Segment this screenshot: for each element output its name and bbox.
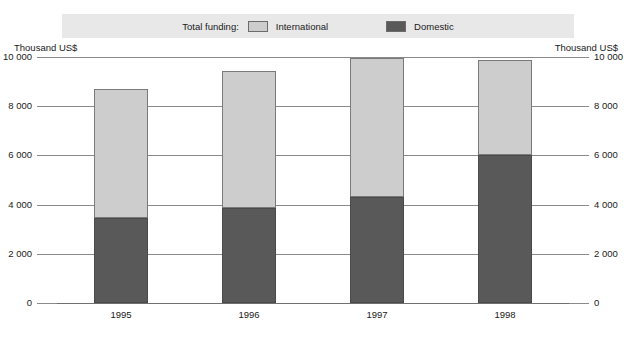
bar-segment-international-1998[interactable] xyxy=(478,60,532,155)
x-axis-label-1998: 1998 xyxy=(478,309,532,320)
tick-stub-left-0 xyxy=(37,303,57,304)
bar-segment-international-1996[interactable] xyxy=(222,71,276,208)
international-swatch-icon xyxy=(248,21,268,32)
y-tick-label-left-8000: 8 000 xyxy=(8,101,32,111)
bar-segment-international-1995[interactable] xyxy=(94,89,148,218)
tick-stub-right-10000 xyxy=(569,57,589,58)
legend-inner: Total funding: International Domestic xyxy=(182,21,453,32)
tick-stub-right-6000 xyxy=(569,155,589,156)
y-tick-label-left-0: 0 xyxy=(27,298,32,308)
legend-label-international: International xyxy=(276,21,328,32)
x-axis-label-1997: 1997 xyxy=(350,309,404,320)
legend-entry-international: International xyxy=(248,21,328,32)
y-tick-label-right-0: 0 xyxy=(594,298,599,308)
y-tick-label-left-2000: 2 000 xyxy=(8,249,32,259)
tick-stub-left-10000 xyxy=(37,57,57,58)
tick-stub-left-4000 xyxy=(37,205,57,206)
bar-1997[interactable] xyxy=(350,57,404,303)
y-tick-label-left-10000: 10 000 xyxy=(3,52,32,62)
legend-label-domestic: Domestic xyxy=(414,21,454,32)
bar-1995[interactable] xyxy=(94,57,148,303)
tick-stub-right-0 xyxy=(569,303,589,304)
domestic-swatch-icon xyxy=(386,21,406,32)
tick-stub-left-6000 xyxy=(37,155,57,156)
y-tick-label-left-4000: 4 000 xyxy=(8,200,32,210)
gridline-0 xyxy=(57,303,569,304)
x-axis-label-1996: 1996 xyxy=(222,309,276,320)
y-tick-label-right-8000: 8 000 xyxy=(594,101,618,111)
y-tick-label-right-6000: 6 000 xyxy=(594,151,618,161)
chart-figure: Total funding: International Domestic Th… xyxy=(0,0,625,341)
chart-legend: Total funding: International Domestic xyxy=(62,14,574,38)
plot-area: 002 0002 0004 0004 0006 0006 0008 0008 0… xyxy=(57,57,569,303)
bar-segment-domestic-1997[interactable] xyxy=(350,197,404,303)
y-tick-label-left-6000: 6 000 xyxy=(8,151,32,161)
x-axis-label-1995: 1995 xyxy=(94,309,148,320)
tick-stub-right-2000 xyxy=(569,254,589,255)
y-tick-label-right-2000: 2 000 xyxy=(594,249,618,259)
bar-1996[interactable] xyxy=(222,57,276,303)
tick-stub-left-2000 xyxy=(37,254,57,255)
tick-stub-left-8000 xyxy=(37,106,57,107)
bar-segment-domestic-1998[interactable] xyxy=(478,155,532,303)
tick-stub-right-8000 xyxy=(569,106,589,107)
y-tick-label-right-10000: 10 000 xyxy=(594,52,623,62)
legend-title: Total funding: xyxy=(182,21,239,32)
tick-stub-right-4000 xyxy=(569,205,589,206)
bar-segment-domestic-1996[interactable] xyxy=(222,208,276,303)
y-tick-label-right-4000: 4 000 xyxy=(594,200,618,210)
bar-segment-domestic-1995[interactable] xyxy=(94,218,148,303)
bar-1998[interactable] xyxy=(478,57,532,303)
bar-segment-international-1997[interactable] xyxy=(350,58,404,197)
legend-entry-domestic: Domestic xyxy=(386,21,454,32)
